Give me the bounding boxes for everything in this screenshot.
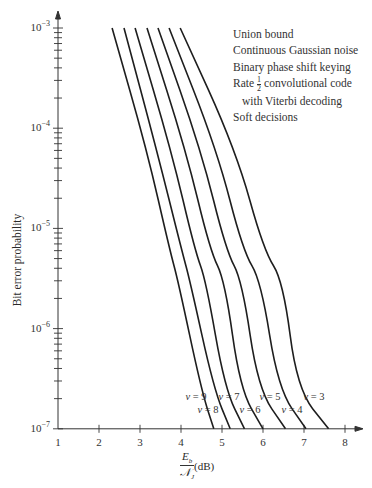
y-tick-exponent: −5 [41,219,50,228]
x-axis-fraction: Eb 𝒩J [180,450,194,481]
y-axis-arrow-icon [56,11,61,19]
x-tick-label: 5 [219,436,225,448]
curve-label-value: = 3 [308,391,324,402]
curve-label-value: = 5 [264,391,280,402]
curve-label: v = 4 [281,404,303,415]
x-tick-label: 3 [137,436,143,448]
curve-label: v = 8 [197,404,218,415]
x-tick-label: 4 [178,436,184,448]
x-tick-label: 6 [260,436,266,448]
y-tick-label: 10−5 [30,219,50,233]
x-tick-label: 7 [301,436,307,448]
curve-label-value: = 8 [202,404,218,415]
x-axis-unit: (dB) [194,460,214,472]
annotation-text: Rate [233,77,254,89]
y-tick-exponent: −3 [41,19,50,28]
curve-label-value: = 6 [244,404,260,415]
y-tick-label: 10−3 [30,19,50,33]
ber-curve [112,28,214,429]
annotation-line: with Viterbi decoding [233,93,358,109]
curve-label-value: = 4 [286,404,303,415]
x-tick-label: 1 [55,436,61,448]
curve-label: v = 3 [303,391,324,402]
fraction-denominator: 2 [257,85,261,93]
annotation-line: Continuous Gaussian noise [233,42,358,58]
ber-curve [135,28,244,429]
curve-label: v = 5 [259,391,280,402]
annotation-line: Soft decisions [233,109,358,125]
curve-label: v = 7 [218,391,239,402]
symbol-N: 𝒩 [180,466,191,478]
curve-label: v = 6 [239,404,260,415]
y-tick-exponent: −7 [41,420,50,429]
y-tick-label: 10−7 [30,420,50,434]
x-axis-arrow-icon [355,426,363,431]
x-tick-label: 2 [96,436,102,448]
x-axis-denominator: 𝒩J [180,466,194,481]
x-tick-label: 8 [342,436,348,448]
annotation-text: convolutional code [264,77,352,89]
y-tick-label: 10−4 [30,119,50,133]
subscript-J: J [191,473,194,481]
curve-label-value: = 9 [190,391,206,402]
annotation-line: Binary phase shift keying [233,59,358,75]
curve-label: v = 9 [185,391,206,402]
chart-annotation: Union bound Continuous Gaussian noise Bi… [233,26,358,125]
annotation-line: Rate12convolutional code [233,75,358,93]
symbol-E: E [182,450,189,462]
subscript-b: b [189,457,193,465]
y-tick-exponent: −4 [41,119,50,128]
y-axis-label: Bit error probability [11,195,23,325]
x-axis-numerator: Eb [180,450,194,466]
x-axis-label: Eb 𝒩J (dB) [180,450,214,481]
y-tick-label: 10−6 [30,320,50,334]
curve-label-value: = 7 [223,391,239,402]
annotation-line: Union bound [233,26,358,42]
y-tick-exponent: −6 [41,320,50,329]
fraction: 12 [257,76,261,93]
ber-curve [124,28,230,429]
